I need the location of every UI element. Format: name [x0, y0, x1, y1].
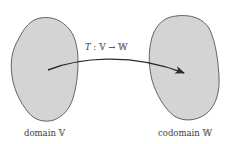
map-arrow-glyph: → [106, 42, 119, 52]
map-label: T : 𝕍 → 𝕎 [85, 42, 128, 52]
mapping-diagram [0, 0, 237, 144]
map-target: 𝕎 [118, 42, 128, 52]
domain-label: domain 𝕍 [24, 128, 65, 138]
domain-set [11, 18, 78, 122]
codomain-set [149, 16, 219, 120]
codomain-label: codomain 𝕎 [158, 128, 212, 138]
map-source: 𝕍 [99, 42, 106, 52]
map-separator: : [91, 42, 99, 52]
